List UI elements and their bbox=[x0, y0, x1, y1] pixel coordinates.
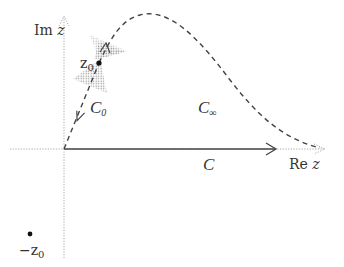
real-axis-label: Re z bbox=[289, 156, 320, 172]
minus-z0-label-main: −z bbox=[19, 242, 38, 258]
Cinf-label-main: C bbox=[198, 98, 209, 117]
real-label-text: Re bbox=[289, 156, 308, 172]
contour-C bbox=[64, 143, 276, 155]
minus-z0-label: −z0 bbox=[19, 242, 44, 260]
Cinf-label-sub: ∞ bbox=[209, 107, 216, 118]
point-minus-z0 bbox=[28, 232, 33, 237]
contour-diagram: Im z Re z z0 −z0 C0 C∞ C bbox=[0, 0, 344, 267]
C0-label-main: C bbox=[90, 98, 101, 117]
C0-label-sub: 0 bbox=[101, 107, 106, 118]
C-infinity-label: C∞ bbox=[198, 98, 216, 118]
point-z0 bbox=[96, 60, 101, 65]
C0-label: C0 bbox=[90, 98, 106, 118]
z0-label-sub: 0 bbox=[87, 62, 93, 73]
imag-axis-label: Im z bbox=[34, 22, 65, 38]
imag-label-var: z bbox=[57, 22, 64, 38]
minus-z0-label-sub: 0 bbox=[38, 249, 44, 260]
real-label-var: z bbox=[312, 156, 319, 172]
z0-label: z0 bbox=[80, 55, 94, 73]
contour-C-infinity bbox=[99, 14, 320, 148]
C-label: C bbox=[203, 155, 214, 175]
diagram-canvas bbox=[0, 0, 344, 267]
imag-label-text: Im bbox=[34, 22, 53, 38]
imag-axis bbox=[59, 16, 69, 258]
C-label-main: C bbox=[203, 155, 214, 174]
